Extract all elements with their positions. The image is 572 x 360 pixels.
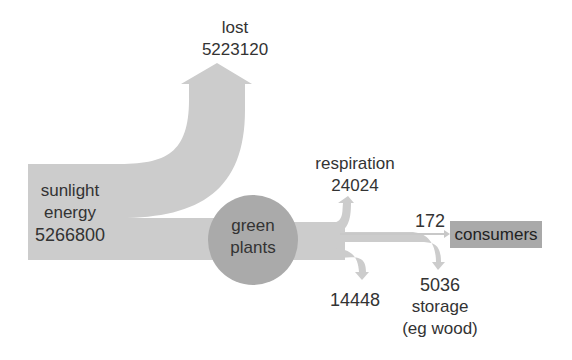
storage-label-line2: (eg wood) bbox=[385, 319, 495, 339]
lost-value: 5223120 bbox=[175, 40, 295, 60]
respiration-value: 24024 bbox=[300, 176, 410, 196]
source-value: 5266800 bbox=[20, 225, 120, 245]
lost-label: lost bbox=[205, 18, 265, 38]
node-label-line1: green bbox=[213, 216, 293, 236]
node-label-line2: plants bbox=[213, 238, 293, 258]
source-label-line2: energy bbox=[20, 203, 120, 223]
source-label-line1: sunlight bbox=[20, 181, 120, 201]
unlabeled-output-value: 14448 bbox=[320, 290, 390, 310]
storage-value: 5036 bbox=[400, 275, 480, 295]
consumers-label: consumers bbox=[450, 225, 542, 245]
consumers-flow-value: 172 bbox=[410, 211, 450, 231]
respiration-flow bbox=[332, 196, 354, 234]
unlabeled-output-flow bbox=[330, 248, 369, 280]
storage-label-line1: storage bbox=[390, 297, 490, 317]
respiration-label: respiration bbox=[300, 154, 410, 174]
